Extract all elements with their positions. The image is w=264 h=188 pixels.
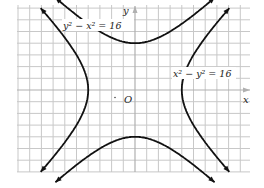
x-axis-arrow-icon bbox=[243, 88, 250, 93]
y-axis-arrow-icon bbox=[133, 6, 138, 13]
x-axis-label: x bbox=[243, 94, 249, 105]
dot-mark bbox=[114, 97, 116, 99]
vertical-hyperbola-label: y² − x² = 16 bbox=[62, 20, 121, 31]
hyperbola-diagram: x y O y² − x² = 16 x² − y² = 16 bbox=[0, 0, 264, 188]
y-axis-label: y bbox=[122, 5, 129, 16]
horizontal-hyperbola-label: x² − y² = 16 bbox=[173, 68, 231, 79]
origin-label: O bbox=[124, 94, 132, 105]
